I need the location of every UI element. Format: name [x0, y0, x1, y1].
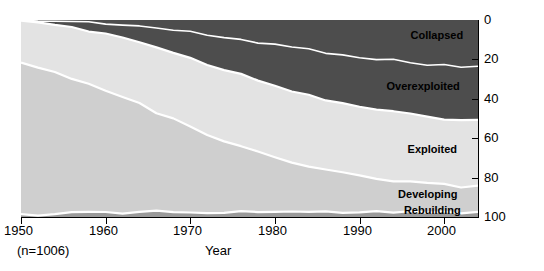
y-tick-label-0: 0: [484, 12, 491, 27]
y-tick-60: [472, 138, 479, 139]
y-tick-label-100: 100: [484, 209, 506, 224]
y-tick-label-60: 60: [484, 130, 498, 145]
x-tick-label-1970: 1970: [173, 223, 202, 238]
band-label-rebuilding: Rebuilding: [404, 204, 461, 216]
y-tick-label-80: 80: [484, 170, 498, 185]
x-tick-label-2000: 2000: [427, 223, 456, 238]
y-axis-title-wrapper: Number of stocks by status (%): [518, 18, 540, 218]
x-tick-label-1980: 1980: [258, 223, 287, 238]
x-tick-label-1960: 1960: [89, 223, 118, 238]
stacked-area-chart-figure: 195019601970198019902000 020406080100 Co…: [0, 0, 544, 271]
y-tick-80: [472, 178, 479, 179]
sample-size-note: (n=1006): [17, 243, 69, 258]
band-label-exploited: Exploited: [408, 143, 458, 155]
x-tick-label-1950: 1950: [4, 223, 33, 238]
x-axis-title: Year: [205, 243, 231, 258]
x-axis-tick-labels: 195019601970198019902000: [0, 223, 544, 243]
band-label-developing: Developing: [398, 188, 457, 200]
y-tick-label-20: 20: [484, 51, 498, 66]
x-axis-line: [21, 217, 479, 218]
y-tick-20: [472, 59, 479, 60]
y-axis-line: [478, 20, 479, 218]
x-tick-label-1990: 1990: [343, 223, 372, 238]
y-tick-40: [472, 99, 479, 100]
band-label-overexploited: Overexploited: [386, 80, 459, 92]
band-label-collapsed: Collapsed: [411, 29, 464, 41]
y-tick-label-40: 40: [484, 91, 498, 106]
